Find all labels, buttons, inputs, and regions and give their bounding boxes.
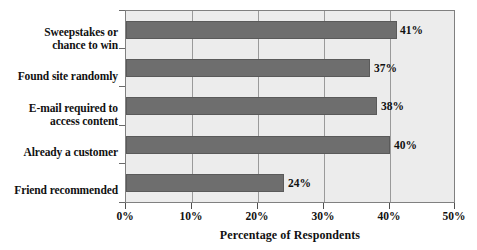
bar-sweepstakes[interactable] (126, 21, 397, 39)
x-tick-label-0: 0% (116, 209, 133, 223)
plot-area (125, 10, 455, 203)
bar-email-required[interactable] (126, 97, 377, 115)
x-axis-tick-labels: 0% 10% 20% 30% 40% 50% (125, 209, 455, 225)
x-tick-label-20: 20% (246, 209, 269, 223)
category-row: Sweepstakes or chance to win (0, 22, 122, 56)
category-row: E-mail required to access content (0, 98, 122, 132)
x-tick-label-30: 30% (312, 209, 335, 223)
category-label-email-required: E-mail required to access content (29, 102, 118, 128)
value-label-found-randomly: 37% (374, 62, 397, 74)
category-row: Found site randomly (0, 60, 122, 94)
bar-found-randomly[interactable] (126, 59, 370, 77)
x-axis-title: Percentage of Respondents (125, 228, 455, 242)
category-label-sweepstakes: Sweepstakes or chance to win (44, 26, 118, 52)
value-label-friend-recommended: 24% (288, 177, 311, 189)
x-tick-label-10: 10% (180, 209, 203, 223)
category-label-friend-recommended: Friend recommended (14, 184, 118, 197)
bar-friend-recommended[interactable] (126, 174, 284, 192)
bar-already-customer[interactable] (126, 136, 390, 154)
category-label-found-randomly: Found site randomly (18, 70, 118, 83)
value-label-sweepstakes: 41% (400, 24, 423, 36)
value-label-email-required: 38% (381, 100, 404, 112)
category-label-already-customer: Already a customer (24, 146, 118, 159)
value-label-already-customer: 40% (394, 139, 417, 151)
bar-chart: Sweepstakes or chance to win Found site … (0, 0, 477, 250)
category-row: Friend recommended (0, 174, 122, 208)
category-axis: Sweepstakes or chance to win Found site … (0, 10, 122, 203)
category-row: Already a customer (0, 136, 122, 170)
x-tick-label-50: 50% (443, 209, 466, 223)
x-tick-label-40: 40% (378, 209, 401, 223)
